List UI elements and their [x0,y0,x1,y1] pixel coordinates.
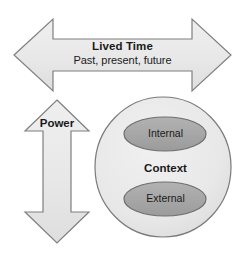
lived-time-arrow-shape [14,19,231,91]
external-ellipse-shape [124,182,206,216]
internal-ellipse-shape [124,117,206,151]
power-arrow-shape [25,100,89,243]
diagram-shapes [0,0,245,258]
diagram-canvas: Lived Time Past, present, future Power I… [0,0,245,258]
